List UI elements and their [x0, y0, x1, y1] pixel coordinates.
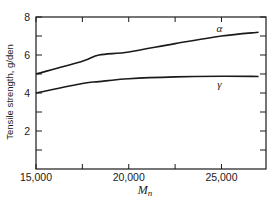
series-line-gamma	[36, 76, 259, 93]
plot-area: αγ	[36, 22, 259, 93]
axes: 15,00020,00025,0002468	[20, 11, 266, 183]
y-tick-label: 8	[24, 11, 30, 23]
x-tick-label: 20,000	[113, 171, 145, 183]
y-axis-label: Tensile strength, g/den	[4, 44, 15, 140]
x-axis-label: Mn	[137, 183, 153, 198]
y-tick-label: 4	[24, 87, 30, 99]
x-tick-label: 25,000	[205, 171, 237, 183]
plot-frame	[36, 17, 266, 169]
tensile-strength-chart: αγ 15,00020,00025,0002468 Tensile streng…	[0, 0, 279, 201]
series-line-alpha	[36, 32, 259, 74]
series-label-gamma: γ	[217, 78, 222, 90]
y-tick-label: 6	[24, 49, 30, 61]
x-axis-label-sub: n	[148, 188, 153, 198]
series-label-alpha: α	[217, 22, 223, 34]
x-tick-label: 15,000	[20, 171, 52, 183]
y-tick-label: 2	[24, 125, 30, 137]
